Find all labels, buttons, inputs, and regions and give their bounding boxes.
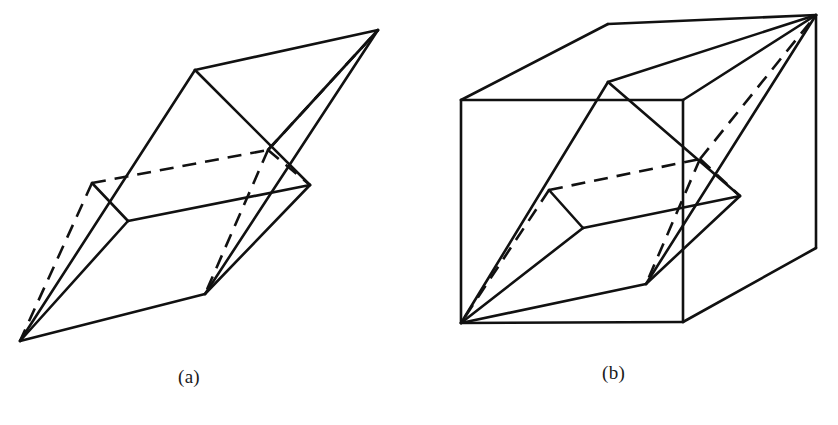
panel-a-hidden-edge-2 bbox=[20, 183, 92, 341]
panel-b-inner-edge-7 bbox=[549, 190, 583, 228]
panel-b-box-edge-4 bbox=[461, 24, 608, 100]
panel-b-inner-hidden-edge-4 bbox=[700, 15, 816, 159]
panel-b-box-edge-6 bbox=[683, 15, 816, 100]
panel-b-bounding-box-edges bbox=[461, 15, 816, 323]
panel-a-solid-edges bbox=[20, 30, 378, 341]
panel-a-hidden-edge-1 bbox=[268, 150, 310, 185]
panel-a-hidden-edge-4 bbox=[268, 30, 378, 150]
panel-a-edge-4 bbox=[195, 70, 310, 185]
panel-a-hidden-edge-0 bbox=[92, 150, 268, 183]
panel-b-inner-hidden-edge-0 bbox=[549, 159, 700, 190]
panel-a-edge-2 bbox=[20, 221, 128, 341]
panel-b-inner-edge-8 bbox=[583, 196, 740, 228]
figure-container: (a) (b) bbox=[0, 0, 838, 425]
panel-a-drawing bbox=[20, 30, 378, 341]
panel-b-inner-edge-0 bbox=[461, 82, 608, 323]
panel-b-box-edge-8 bbox=[683, 248, 816, 322]
panel-a-edge-3 bbox=[195, 30, 378, 70]
parallelepiped-diagram bbox=[0, 0, 838, 425]
panel-a-caption: (a) bbox=[178, 366, 200, 388]
panel-a-edge-8 bbox=[92, 183, 128, 221]
panel-a-edge-0 bbox=[20, 70, 195, 341]
panel-b-inner-hidden-edge-3 bbox=[646, 159, 700, 284]
panel-a-edge-5 bbox=[205, 30, 378, 294]
panel-b-inner-edge-2 bbox=[461, 228, 583, 323]
panel-b-box-edge-3 bbox=[461, 322, 683, 323]
panel-b-box-edge-5 bbox=[608, 15, 816, 24]
panel-b-drawing bbox=[461, 15, 816, 323]
panel-a-edge-9 bbox=[128, 185, 310, 221]
panel-a-edge-1 bbox=[20, 294, 205, 341]
panel-b-inner-edge-3 bbox=[608, 15, 816, 82]
panel-b-caption: (b) bbox=[602, 362, 625, 384]
panel-a-hidden-edge-3 bbox=[205, 150, 268, 294]
panel-b-inner-edge-1 bbox=[461, 284, 646, 323]
panel-b-inner-edge-5 bbox=[646, 15, 816, 284]
